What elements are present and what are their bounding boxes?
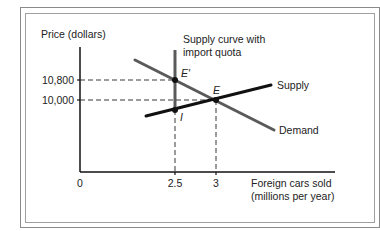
- x-axis-label-line2: (millions per year): [251, 190, 334, 202]
- x-tick-label-2-5: 2.5: [168, 177, 183, 189]
- demand-curve: [135, 60, 274, 130]
- y-axis-label: Price (dollars): [41, 28, 106, 40]
- x-tick-label-0: 0: [77, 177, 83, 189]
- x-tick-label-3: 3: [213, 177, 219, 189]
- supply-curve: [146, 85, 271, 116]
- y-tick-label-10800: 10,800: [42, 74, 74, 86]
- y-tick-label-10000: 10,000: [42, 94, 74, 106]
- supply-label: Supply: [277, 79, 310, 91]
- point-i-label: I: [180, 111, 183, 123]
- demand-label: Demand: [279, 124, 319, 136]
- point-e: [213, 97, 219, 103]
- point-e-prime: [172, 77, 178, 83]
- point-i: [172, 107, 178, 113]
- x-axis-label-line1: Foreign cars sold: [251, 177, 332, 189]
- point-e-prime-label: E′: [181, 67, 191, 79]
- quota-label-line2: import quota: [183, 46, 242, 58]
- quota-label-line1: Supply curve with: [183, 33, 265, 45]
- point-e-label: E: [213, 84, 221, 96]
